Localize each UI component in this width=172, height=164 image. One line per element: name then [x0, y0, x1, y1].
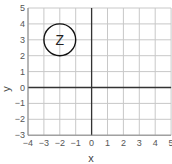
y-tick-label: 5	[20, 3, 25, 13]
y-tick-label: −1	[15, 98, 25, 108]
x-tick-label: 3	[137, 138, 142, 148]
y-tick-labels: −3−2−1012345	[15, 3, 25, 140]
x-tick-label: 2	[121, 138, 126, 148]
y-tick-label: 1	[20, 67, 25, 77]
y-tick-label: 2	[20, 51, 25, 61]
y-tick-label: 0	[20, 83, 25, 93]
y-axis-label: y	[0, 86, 12, 92]
x-tick-label: 4	[153, 138, 158, 148]
y-tick-label: −3	[15, 130, 25, 140]
x-tick-label: 5	[169, 138, 172, 148]
x-tick-label: −2	[55, 138, 65, 148]
y-tick-label: 3	[20, 35, 25, 45]
x-tick-label: 0	[89, 138, 94, 148]
coordinate-plane: −4−3−2−1012345 −3−2−1012345 Z x y	[0, 0, 172, 164]
x-tick-label: −1	[71, 138, 81, 148]
x-axis-label: x	[88, 152, 94, 164]
y-tick-label: 4	[20, 19, 25, 29]
circle-label: Z	[56, 32, 65, 48]
x-tick-labels: −4−3−2−1012345	[23, 138, 172, 148]
x-tick-label: 1	[105, 138, 110, 148]
x-tick-label: −3	[39, 138, 49, 148]
y-tick-label: −2	[15, 114, 25, 124]
